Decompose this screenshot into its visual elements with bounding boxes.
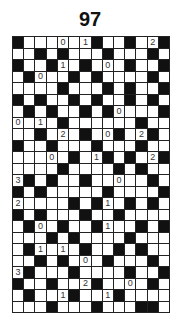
white-cell[interactable] [24, 279, 34, 290]
white-cell[interactable] [24, 49, 34, 60]
clue-cell[interactable]: 0 [47, 152, 57, 163]
white-cell[interactable] [58, 175, 68, 186]
white-cell[interactable] [114, 95, 124, 106]
clue-cell[interactable]: 0 [13, 118, 23, 129]
white-cell[interactable] [47, 83, 57, 94]
white-cell[interactable] [125, 141, 135, 152]
white-cell[interactable] [47, 118, 57, 129]
white-cell[interactable] [69, 141, 79, 152]
clue-cell[interactable]: 1 [103, 198, 113, 209]
white-cell[interactable] [24, 210, 34, 221]
white-cell[interactable] [125, 290, 135, 301]
white-cell[interactable] [13, 72, 23, 83]
white-cell[interactable] [125, 118, 135, 129]
white-cell[interactable] [136, 187, 146, 198]
white-cell[interactable] [35, 267, 45, 278]
white-cell[interactable] [148, 233, 158, 244]
white-cell[interactable] [35, 198, 45, 209]
white-cell[interactable] [80, 118, 90, 129]
white-cell[interactable] [136, 83, 146, 94]
white-cell[interactable] [148, 106, 158, 117]
clue-cell[interactable]: 0 [103, 60, 113, 71]
white-cell[interactable] [35, 152, 45, 163]
white-cell[interactable] [69, 37, 79, 48]
white-cell[interactable] [148, 267, 158, 278]
white-cell[interactable] [148, 83, 158, 94]
white-cell[interactable] [24, 129, 34, 140]
white-cell[interactable] [69, 221, 79, 232]
white-cell[interactable] [136, 60, 146, 71]
clue-cell[interactable]: 1 [58, 244, 68, 255]
clue-cell[interactable]: 0 [58, 37, 68, 48]
white-cell[interactable] [136, 279, 146, 290]
white-cell[interactable] [103, 37, 113, 48]
white-cell[interactable] [58, 210, 68, 221]
white-cell[interactable] [125, 106, 135, 117]
white-cell[interactable] [35, 302, 45, 313]
white-cell[interactable] [35, 60, 45, 71]
white-cell[interactable] [47, 256, 57, 267]
white-cell[interactable] [58, 187, 68, 198]
white-cell[interactable] [58, 302, 68, 313]
white-cell[interactable] [24, 152, 34, 163]
white-cell[interactable] [80, 95, 90, 106]
white-cell[interactable] [103, 302, 113, 313]
white-cell[interactable] [92, 187, 102, 198]
white-cell[interactable] [148, 60, 158, 71]
white-cell[interactable] [114, 118, 124, 129]
white-cell[interactable] [13, 221, 23, 232]
white-cell[interactable] [24, 83, 34, 94]
white-cell[interactable] [125, 164, 135, 175]
white-cell[interactable] [136, 95, 146, 106]
white-cell[interactable] [136, 256, 146, 267]
white-cell[interactable] [69, 210, 79, 221]
white-cell[interactable] [159, 256, 169, 267]
white-cell[interactable] [159, 302, 169, 313]
white-cell[interactable] [58, 95, 68, 106]
white-cell[interactable] [47, 210, 57, 221]
white-cell[interactable] [114, 187, 124, 198]
white-cell[interactable] [125, 175, 135, 186]
white-cell[interactable] [35, 164, 45, 175]
white-cell[interactable] [35, 279, 45, 290]
white-cell[interactable] [47, 95, 57, 106]
white-cell[interactable] [114, 302, 124, 313]
white-cell[interactable] [159, 210, 169, 221]
white-cell[interactable] [58, 106, 68, 117]
white-cell[interactable] [159, 72, 169, 83]
white-cell[interactable] [114, 267, 124, 278]
white-cell[interactable] [24, 164, 34, 175]
white-cell[interactable] [35, 37, 45, 48]
white-cell[interactable] [103, 244, 113, 255]
white-cell[interactable] [136, 233, 146, 244]
white-cell[interactable] [13, 256, 23, 267]
white-cell[interactable] [58, 72, 68, 83]
clue-cell[interactable]: 1 [58, 290, 68, 301]
white-cell[interactable] [136, 198, 146, 209]
white-cell[interactable] [92, 106, 102, 117]
white-cell[interactable] [69, 302, 79, 313]
clue-cell[interactable]: 1 [80, 37, 90, 48]
white-cell[interactable] [125, 187, 135, 198]
white-cell[interactable] [103, 267, 113, 278]
white-cell[interactable] [13, 302, 23, 313]
white-cell[interactable] [24, 198, 34, 209]
white-cell[interactable] [69, 175, 79, 186]
white-cell[interactable] [136, 175, 146, 186]
white-cell[interactable] [114, 152, 124, 163]
white-cell[interactable] [80, 72, 90, 83]
white-cell[interactable] [159, 129, 169, 140]
white-cell[interactable] [103, 118, 113, 129]
white-cell[interactable] [47, 198, 57, 209]
white-cell[interactable] [47, 164, 57, 175]
white-cell[interactable] [58, 279, 68, 290]
clue-cell[interactable]: 3 [13, 267, 23, 278]
white-cell[interactable] [114, 72, 124, 83]
clue-cell[interactable]: 2 [80, 279, 90, 290]
white-cell[interactable] [47, 267, 57, 278]
white-cell[interactable] [148, 141, 158, 152]
white-cell[interactable] [47, 37, 57, 48]
white-cell[interactable] [92, 49, 102, 60]
white-cell[interactable] [136, 106, 146, 117]
white-cell[interactable] [125, 256, 135, 267]
